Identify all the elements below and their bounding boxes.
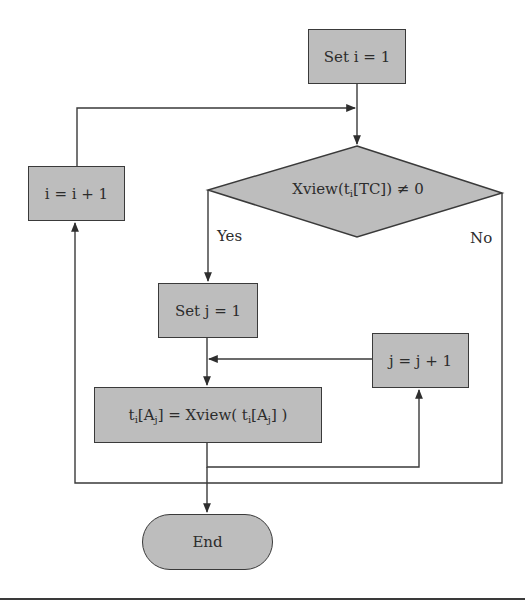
edge-inci-join <box>77 108 355 166</box>
node-end: End <box>142 514 273 570</box>
node-set-j: Set j = 1 <box>158 283 258 338</box>
node-inc-j-label: j = j + 1 <box>389 352 452 370</box>
node-set-j-label: Set j = 1 <box>175 302 241 320</box>
edge-label-yes: Yes <box>217 227 242 245</box>
node-set-i-label: Set i = 1 <box>324 48 390 66</box>
node-end-label: End <box>192 533 222 551</box>
node-assign: ti[Aj] = Xview( ti[Aj] ) <box>94 387 322 443</box>
edges-layer <box>0 0 525 603</box>
decision-label: Xview(ti[TC]) ≠ 0 <box>258 180 458 199</box>
node-inc-i-label: i = i + 1 <box>45 185 108 203</box>
edge-label-no: No <box>470 229 492 247</box>
node-inc-i: i = i + 1 <box>28 166 125 221</box>
node-set-i: Set i = 1 <box>308 29 406 84</box>
node-assign-label: ti[Aj] = Xview( ti[Aj] ) <box>129 406 288 425</box>
node-inc-j: j = j + 1 <box>372 333 469 388</box>
